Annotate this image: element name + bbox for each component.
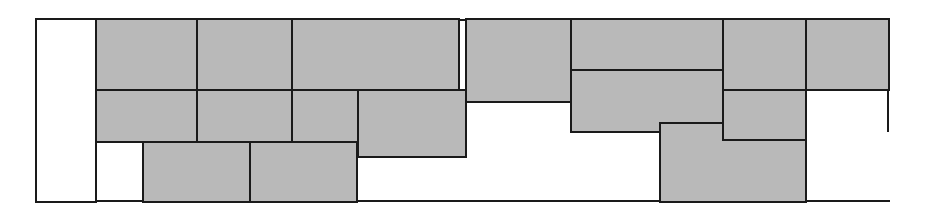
block-b4[interactable] [358,90,466,157]
block-b1[interactable] [96,90,197,142]
block-a7[interactable] [806,19,889,90]
block-a2[interactable] [197,19,292,90]
packing-figure [0,0,928,212]
block-a1[interactable] [96,19,197,90]
block-b2[interactable] [197,90,292,142]
block-c2[interactable] [250,142,357,202]
block-c1[interactable] [143,142,250,202]
packing-diagram [0,0,928,212]
block-a6[interactable] [723,19,806,90]
block-a5[interactable] [571,19,723,70]
block-a3[interactable] [292,19,459,90]
empty-left-gap [36,19,96,202]
block-a4[interactable] [466,19,571,102]
